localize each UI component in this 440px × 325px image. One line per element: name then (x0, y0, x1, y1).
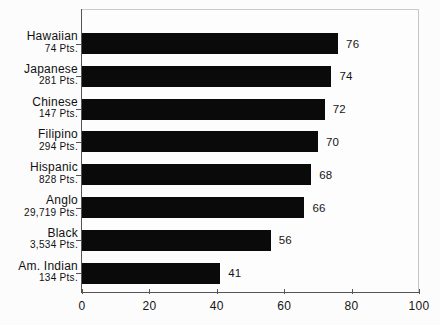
category-label: Japanese281 Pts. (0, 63, 78, 87)
bar-value-label: 76 (346, 38, 359, 50)
x-axis-tick-label: 0 (79, 299, 86, 313)
y-axis-tick (76, 208, 81, 209)
bar (82, 164, 311, 185)
category-name: Hispanic (0, 161, 78, 174)
x-axis-tick (419, 289, 420, 294)
y-axis-tick (76, 273, 81, 274)
y-axis-tick (76, 175, 81, 176)
category-label: Am. Indian134 Pts. (0, 260, 78, 284)
category-name: Chinese (0, 96, 78, 109)
bar-row: 70 (82, 131, 419, 152)
y-axis-tick (76, 240, 81, 241)
category-name: Filipino (0, 128, 78, 141)
bar-row: 56 (82, 230, 419, 251)
y-axis-tick (76, 142, 81, 143)
category-points: 29,719 Pts. (0, 208, 78, 219)
x-axis-tick (149, 289, 150, 294)
bar-value-label: 66 (312, 202, 325, 214)
bar (82, 230, 271, 251)
x-axis-tick (284, 289, 285, 294)
category-label: Hawaiian74 Pts. (0, 30, 78, 54)
bar-row: 66 (82, 197, 419, 218)
category-points: 828 Pts. (0, 175, 78, 186)
category-label: Anglo29,719 Pts. (0, 194, 78, 218)
category-name: Anglo (0, 194, 78, 207)
bar-chart: 7674727068665641 Hawaiian74 Pts.Japanese… (0, 0, 440, 325)
x-axis-tick-label: 80 (345, 299, 359, 313)
bar (82, 131, 318, 152)
x-axis-tick-label: 100 (409, 299, 430, 313)
x-axis-tick (82, 289, 83, 294)
category-label: Hispanic828 Pts. (0, 161, 78, 185)
category-name: Black (0, 227, 78, 240)
category-points: 74 Pts. (0, 44, 78, 55)
category-points: 3,534 Pts. (0, 240, 78, 251)
bar-value-label: 72 (333, 103, 346, 115)
y-axis-tick (76, 44, 81, 45)
x-axis-tick-label: 60 (277, 299, 291, 313)
category-name: Japanese (0, 63, 78, 76)
y-axis-tick (76, 76, 81, 77)
category-points: 294 Pts. (0, 142, 78, 153)
bar (82, 66, 331, 87)
category-points: 281 Pts. (0, 76, 78, 87)
category-points: 147 Pts. (0, 109, 78, 120)
bar-row: 74 (82, 66, 419, 87)
bar-value-label: 68 (319, 169, 332, 181)
bar-value-label: 74 (339, 70, 352, 82)
bars-layer: 7674727068665641 (82, 9, 419, 293)
bar (82, 263, 220, 284)
category-points: 134 Pts. (0, 273, 78, 284)
x-axis-tick-label: 20 (142, 299, 156, 313)
category-label: Chinese147 Pts. (0, 96, 78, 120)
x-axis-tick (217, 289, 218, 294)
bar-value-label: 56 (279, 234, 292, 246)
bar (82, 99, 325, 120)
y-axis-tick (76, 109, 81, 110)
bar-value-label: 41 (228, 267, 241, 279)
x-axis-tick (352, 289, 353, 294)
bar-row: 41 (82, 263, 419, 284)
category-label: Black3,534 Pts. (0, 227, 78, 251)
category-name: Am. Indian (0, 260, 78, 273)
bar-value-label: 70 (326, 136, 339, 148)
bar-row: 76 (82, 33, 419, 54)
bar-row: 68 (82, 164, 419, 185)
category-label: Filipino294 Pts. (0, 128, 78, 152)
x-axis-tick-label: 40 (210, 299, 224, 313)
category-name: Hawaiian (0, 30, 78, 43)
bar (82, 33, 338, 54)
bar (82, 197, 304, 218)
bar-row: 72 (82, 99, 419, 120)
